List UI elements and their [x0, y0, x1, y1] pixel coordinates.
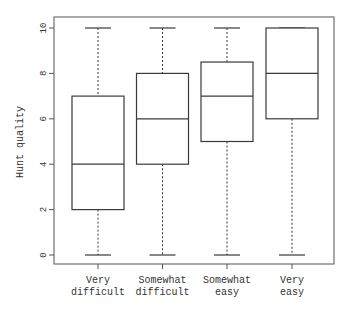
iqr-box — [72, 96, 124, 210]
x-category-label-line1: Very — [86, 275, 110, 286]
y-axis-title: Hunt quality — [15, 106, 26, 178]
box-group — [266, 28, 318, 255]
box-group — [137, 28, 189, 255]
x-category-label-line2: difficult — [71, 287, 125, 298]
x-category-label-line1: Somewhat — [203, 275, 251, 286]
x-axis: VerydifficultSomewhatdifficultSomewhatea… — [71, 264, 304, 298]
y-tick-label: 2 — [39, 207, 49, 212]
x-category-label-line2: difficult — [135, 287, 189, 298]
plot-canvas: 0246810 VerydifficultSomewhatdifficultSo… — [0, 0, 348, 311]
boxplot-chart: 0246810 VerydifficultSomewhatdifficultSo… — [0, 0, 348, 311]
y-tick-label: 4 — [39, 161, 49, 166]
x-category-label-line2: easy — [280, 287, 304, 298]
x-category-label-line2: easy — [215, 287, 239, 298]
x-category-label-line1: Somewhat — [138, 275, 186, 286]
y-tick-label: 10 — [39, 23, 49, 34]
y-tick-label: 0 — [39, 252, 49, 257]
y-axis: 0246810 — [39, 23, 54, 258]
x-category-label-line1: Very — [280, 275, 304, 286]
y-tick-label: 8 — [39, 71, 49, 76]
y-tick-label: 6 — [39, 116, 49, 121]
box-group — [201, 28, 253, 255]
iqr-box — [201, 62, 253, 141]
box-group — [72, 28, 124, 255]
boxes — [72, 28, 318, 255]
